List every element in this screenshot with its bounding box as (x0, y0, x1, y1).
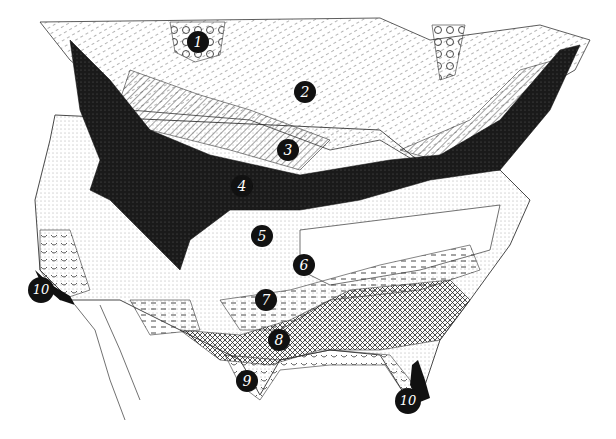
region-label-1: 1 (187, 31, 209, 53)
mexico-outline (75, 305, 140, 420)
region-label-5: 5 (251, 225, 273, 247)
region-label-9: 9 (236, 370, 258, 392)
north-america-region-map (0, 0, 616, 439)
region-label-7: 7 (255, 289, 277, 311)
region-label-8: 8 (268, 329, 290, 351)
region-label-2: 2 (294, 81, 316, 103)
region-label-6: 6 (293, 254, 315, 276)
region-label-3: 3 (277, 139, 299, 161)
region-label-4: 4 (231, 175, 253, 197)
region-label-10-east: 10 (395, 388, 421, 414)
region-label-10-west: 10 (28, 277, 54, 303)
